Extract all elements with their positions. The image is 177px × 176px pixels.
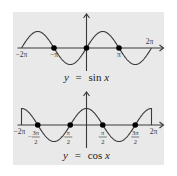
cos-fraction-sign: − bbox=[28, 133, 32, 140]
cos-zero-point bbox=[67, 122, 73, 128]
cosine-label-x: x bbox=[104, 149, 110, 161]
cos-tick-label: −2π bbox=[14, 127, 26, 136]
sin-tick-label: −π bbox=[50, 50, 58, 59]
sine-label-fn: sin bbox=[89, 71, 102, 83]
cos-fraction-sign: − bbox=[60, 133, 64, 140]
sine-label-eq: = bbox=[76, 71, 82, 83]
trig-graphs-figure: −2π−ππ2π y = sin x −2π−3π2−π2π23π22π y =… bbox=[0, 0, 177, 176]
sine-label-x: x bbox=[103, 71, 109, 83]
cos-fraction-denominator: 2 bbox=[101, 138, 104, 145]
cos-zero-point bbox=[100, 122, 106, 128]
sin-tick-label: −2π bbox=[16, 50, 28, 59]
cos-zero-point bbox=[132, 122, 138, 128]
cos-fraction-denominator: 2 bbox=[34, 138, 37, 145]
sin-zero-point bbox=[84, 45, 90, 51]
cosine-label-eq: = bbox=[75, 149, 81, 161]
cosine-label-fn: cos bbox=[88, 149, 103, 161]
cos-fraction-denominator: 2 bbox=[134, 138, 137, 145]
sine-label-y: y bbox=[63, 71, 69, 83]
sin-tick-label: π bbox=[117, 50, 121, 59]
cos-fraction-denominator: 2 bbox=[67, 138, 70, 145]
sin-tick-label: 2π bbox=[146, 37, 154, 46]
cos-fraction-numerator: 3π bbox=[32, 129, 39, 136]
cos-tick-label: 2π bbox=[150, 127, 158, 136]
cos-fraction-numerator: 3π bbox=[132, 129, 139, 136]
cosine-label-y: y bbox=[62, 149, 68, 161]
cos-zero-point bbox=[35, 122, 41, 128]
